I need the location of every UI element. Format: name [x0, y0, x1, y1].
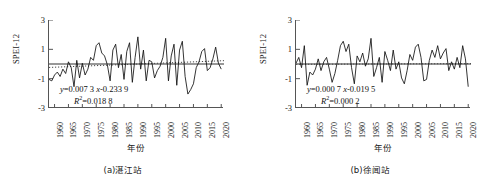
- chart-panel-a: SPEI-12 -3-113 1960196519701975198019851…: [0, 0, 246, 189]
- y-tick-label: 1: [41, 45, 45, 54]
- r-squared-b: R2=0.000 2: [321, 95, 360, 106]
- y-tick-label: -3: [285, 104, 292, 113]
- regression-equation-a: y=0.007 3 x-0.233 9: [60, 84, 128, 94]
- x-axis-title-b: 年份: [295, 141, 470, 153]
- y-axis-title-b: SPEI-12: [258, 13, 268, 85]
- figure-container: SPEI-12 -3-113 1960196519701975198019851…: [0, 0, 493, 189]
- x-tick-label: 2010: [442, 122, 450, 138]
- x-axis-title-a: 年份: [48, 141, 223, 153]
- chart-panel-b: SPEI-12 -3-113 1960196519701975198019851…: [247, 0, 493, 189]
- y-axis-title-a: SPEI-12: [11, 13, 21, 85]
- x-tick-label: 1965: [317, 122, 325, 138]
- x-axis-tick-labels-b: 1960196519701975198019851990199520002005…: [295, 110, 470, 140]
- x-tick-label: 2015: [209, 122, 217, 138]
- x-tick-label: 2005: [429, 122, 437, 138]
- x-tick-label: 1995: [401, 122, 409, 138]
- y-tick-label: -1: [38, 74, 45, 83]
- panel-caption-a: (a)湛江站: [0, 163, 246, 175]
- y-tick-label: -3: [38, 104, 45, 113]
- x-axis-tick-labels-a: 1960196519701975198019851990199520002005…: [48, 110, 223, 140]
- x-tick-label: 1990: [140, 122, 148, 138]
- x-tick-label: 1980: [112, 122, 120, 138]
- x-tick-label: 1970: [331, 122, 339, 138]
- x-tick-label: 1960: [304, 122, 312, 138]
- x-tick-label: 1975: [345, 122, 353, 138]
- data-series-line: [296, 38, 468, 86]
- x-tick-label: 2020: [223, 122, 231, 138]
- x-tick-label: 1990: [387, 122, 395, 138]
- x-tick-label: 1985: [126, 122, 134, 138]
- y-tick-label: -1: [285, 74, 292, 83]
- panel-caption-b: (b)徐闻站: [247, 163, 493, 175]
- x-tick-label: 2020: [470, 122, 478, 138]
- x-tick-label: 1995: [154, 122, 162, 138]
- r-squared-a: R2=0.018 8: [74, 95, 113, 106]
- y-tick-label: 3: [41, 16, 45, 25]
- x-tick-label: 1975: [98, 122, 106, 138]
- x-tick-label: 2015: [456, 122, 464, 138]
- x-tick-label: 1960: [57, 122, 65, 138]
- x-tick-label: 2000: [415, 122, 423, 138]
- x-tick-label: 1980: [359, 122, 367, 138]
- x-tick-label: 2005: [182, 122, 190, 138]
- x-tick-label: 1965: [70, 122, 78, 138]
- x-tick-label: 1970: [84, 122, 92, 138]
- regression-equation-b: y=0.000 7 x-0.019 5: [307, 84, 375, 94]
- x-tick-label: 2000: [168, 122, 176, 138]
- y-tick-label: 1: [288, 45, 292, 54]
- x-tick-label: 1985: [373, 122, 381, 138]
- x-tick-label: 2010: [195, 122, 203, 138]
- y-tick-label: 3: [288, 16, 292, 25]
